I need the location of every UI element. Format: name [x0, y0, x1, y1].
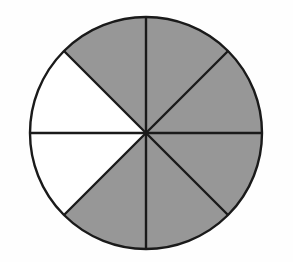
fraction-circle-diagram	[0, 0, 293, 262]
figure-container	[0, 0, 293, 262]
